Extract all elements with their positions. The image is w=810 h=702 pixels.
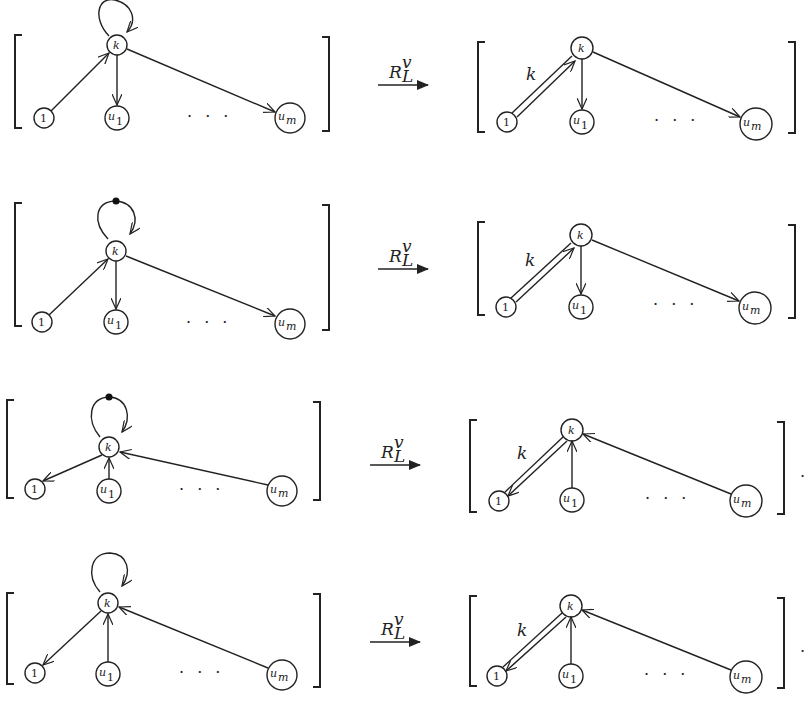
double-edge-a <box>505 437 563 492</box>
ellipsis: · · · <box>644 665 689 684</box>
ellipsis: · · · <box>186 313 231 332</box>
label-um-sub: m <box>278 487 288 500</box>
label-u1-sub: 1 <box>115 319 122 332</box>
label-1: 1 <box>495 495 502 508</box>
label-um-base: u <box>270 667 277 680</box>
label-um-base: u <box>270 483 277 496</box>
operator-superscript: v <box>402 236 412 256</box>
label-k: k <box>578 42 585 55</box>
label-1: 1 <box>31 483 38 496</box>
label-u1-base: u <box>563 492 570 505</box>
rewrite-arrow: R L v <box>370 432 420 466</box>
edge-1-k <box>49 259 108 315</box>
right-bracket <box>322 37 329 131</box>
operator-superscript: v <box>402 52 412 72</box>
edge-k-1 <box>43 611 101 665</box>
label-k: k <box>567 600 574 613</box>
label-k: k <box>104 597 111 610</box>
right-bracket <box>777 422 784 514</box>
label-um-base: u <box>278 110 285 123</box>
operator-symbol: R <box>388 62 402 82</box>
loop-dot-icon <box>106 394 113 401</box>
label-um-sub: m <box>741 497 751 510</box>
operator-symbol: R <box>388 246 402 266</box>
label-um-base: u <box>733 493 740 506</box>
label-u1-sub: 1 <box>580 304 587 317</box>
label-u1-base: u <box>108 110 115 123</box>
label-um-sub: m <box>286 114 296 127</box>
edge-k-um <box>592 240 739 301</box>
label-u1-base: u <box>573 114 580 127</box>
edge-k-um <box>127 49 275 112</box>
edge-k-1 <box>43 455 102 481</box>
double-edge-a <box>503 613 562 667</box>
edge-1-k <box>51 53 109 111</box>
ellipsis: · · · <box>645 489 690 508</box>
left-bracket <box>478 42 485 132</box>
ellipsis: · · · <box>179 480 224 499</box>
label-u1-base: u <box>562 668 569 681</box>
diagram-canvas: k 1 u 1 u m · · · R L v k k <box>0 0 810 702</box>
label-1: 1 <box>40 112 47 125</box>
double-edge-a <box>512 56 572 113</box>
label-um-sub: m <box>286 320 296 333</box>
label-um-base: u <box>278 316 285 329</box>
label-1: 1 <box>503 116 510 129</box>
label-k: k <box>577 229 584 242</box>
rewrite-arrow: R L v <box>370 609 420 643</box>
label-1: 1 <box>502 301 509 314</box>
loop-dot-icon <box>113 198 120 205</box>
label-um-base: u <box>743 116 750 129</box>
rewrite-arrow: R L v <box>378 236 428 270</box>
label-um-base: u <box>733 669 740 682</box>
operator-symbol: R <box>380 619 394 639</box>
label-um-sub: m <box>751 120 761 133</box>
row-4: k 1 u 1 u m · · · R L v k k <box>7 553 805 693</box>
left-bracket <box>478 222 485 315</box>
row-1: k 1 u 1 u m · · · R L v k k <box>15 0 795 140</box>
label-u1-base: u <box>99 666 106 679</box>
left-bracket <box>15 35 22 128</box>
label-um-sub: m <box>741 673 751 686</box>
row-3: k 1 u 1 u m · · · R L v k k <box>7 394 805 518</box>
label-u1-sub: 1 <box>581 119 588 132</box>
self-loop <box>91 397 127 437</box>
left-bracket <box>470 420 477 512</box>
operator-superscript: v <box>394 432 404 452</box>
label-k: k <box>113 39 120 52</box>
label-k: k <box>568 424 575 437</box>
edge-um-k <box>119 607 268 668</box>
label-u1-sub: 1 <box>116 115 123 128</box>
label-u1-sub: 1 <box>107 671 114 684</box>
edge-um-k <box>583 434 731 494</box>
edge-label-k: k <box>517 620 527 640</box>
label-1: 1 <box>38 316 45 329</box>
edge-k-um <box>126 256 275 316</box>
label-k: k <box>105 441 112 454</box>
ellipsis: · · · <box>187 107 232 126</box>
double-edge-b <box>506 617 566 671</box>
label-um-base: u <box>742 300 749 313</box>
label-u1-base: u <box>100 483 107 496</box>
label-k: k <box>112 245 119 258</box>
trailing-period: . <box>800 637 805 656</box>
self-loop <box>92 553 128 592</box>
label-um-sub: m <box>278 671 288 684</box>
edge-label-k: k <box>525 250 535 270</box>
ellipsis: · · · <box>653 295 698 314</box>
label-u1-sub: 1 <box>108 488 115 501</box>
right-bracket <box>322 205 329 330</box>
left-bracket <box>7 400 14 498</box>
rewrite-arrow: R L v <box>378 52 428 86</box>
label-u1-base: u <box>572 299 579 312</box>
ellipsis: · · · <box>654 111 699 130</box>
self-loop <box>99 0 133 36</box>
edge-k-um <box>593 52 740 117</box>
left-bracket <box>7 593 14 684</box>
label-u1-base: u <box>107 314 114 327</box>
trailing-period: . <box>800 462 805 481</box>
right-bracket <box>788 42 795 133</box>
right-bracket <box>313 594 320 687</box>
label-u1-sub: 1 <box>570 673 577 686</box>
edge-label-k: k <box>517 443 527 463</box>
